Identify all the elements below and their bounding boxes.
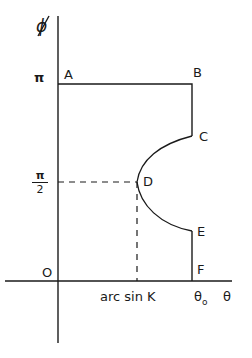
half-pi-numerator: π xyxy=(32,170,48,181)
tick-origin: O xyxy=(42,266,52,279)
theta0-subscript: o xyxy=(202,297,208,307)
half-pi-denominator: 2 xyxy=(32,184,48,195)
tick-arcsin-k: arc sin K xyxy=(100,290,156,303)
tick-theta0: θo xyxy=(194,290,207,307)
point-b: B xyxy=(193,66,202,79)
x-axis-label: θ xyxy=(223,290,231,303)
tick-half-pi: π 2 xyxy=(32,170,48,195)
point-e: E xyxy=(197,225,205,238)
point-a: A xyxy=(64,68,73,81)
point-f: F xyxy=(197,263,204,276)
point-d: D xyxy=(143,175,153,188)
theta0-symbol: θ xyxy=(194,289,202,304)
y-axis-label: ϕ xyxy=(36,18,47,35)
boundary-a-b-c xyxy=(58,84,192,136)
point-c: C xyxy=(199,130,208,143)
tick-pi: π xyxy=(34,71,44,84)
